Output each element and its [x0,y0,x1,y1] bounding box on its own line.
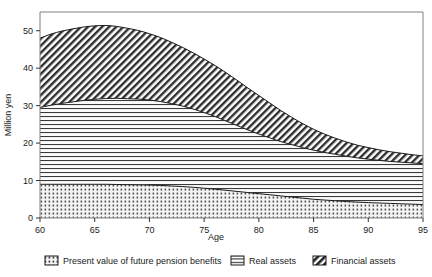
legend-label-pension-benefits: Present value of future pension benefits [63,256,222,266]
x-axis-title: Age [208,232,224,242]
y-tick-label: 20 [23,138,33,148]
y-tick-label: 30 [23,101,33,111]
y-tick-label: 0 [28,213,33,223]
x-tick-label: 80 [254,225,264,235]
y-axis-ticks: 01020304050 [23,26,40,223]
y-tick-label: 40 [23,63,33,73]
legend-swatch-financial-assets [313,256,326,265]
y-tick-label: 50 [23,26,33,36]
chart-container: 01020304050 6065707580859095 Age Million… [0,0,432,277]
y-tick-label: 10 [23,176,33,186]
chart-legend: Present value of future pension benefits… [45,256,396,266]
legend-label-real-assets: Real assets [249,256,297,266]
x-tick-label: 85 [309,225,319,235]
x-tick-label: 70 [144,225,154,235]
x-axis-ticks: 6065707580859095 [35,218,428,235]
x-tick-label: 60 [35,225,45,235]
x-tick-label: 65 [90,225,100,235]
legend-label-financial-assets: Financial assets [331,256,396,266]
legend-swatch-pension-benefits [45,256,58,265]
legend-swatch-real-assets [231,256,244,265]
pension-assets-area-chart: 01020304050 6065707580859095 Age Million… [0,0,432,277]
y-axis-title: Million yen [3,94,13,137]
x-tick-label: 95 [418,225,428,235]
x-tick-label: 90 [363,225,373,235]
